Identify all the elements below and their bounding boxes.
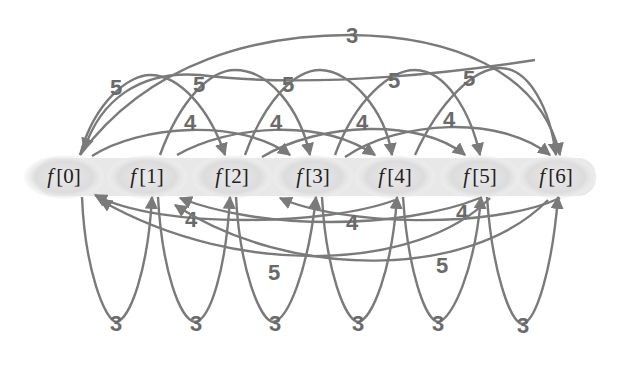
node-f0: f[0] [47,164,80,188]
edge-label: 4 [270,110,283,135]
edge-label: 3 [352,311,364,336]
edge-label: 4 [356,110,369,135]
edge-label: 3 [190,311,202,336]
node-f2: f[2] [215,164,248,188]
edge-label: 4 [443,107,456,132]
circular-shift-diagram: 3 5 5 5 5 5 4 4 4 4 4 4 4 5 5 [0,0,622,368]
edge-label: 3 [269,311,281,336]
edges-bottom-loops: 3 3 3 3 3 3 [82,197,558,338]
edge-label: 4 [346,210,359,235]
edge-label: 5 [282,72,294,97]
edges-top-skip2: 5 5 5 5 5 [80,60,556,155]
node-f4: f[4] [378,164,411,188]
edge-label: 4 [185,207,198,232]
node-f6: f[6] [539,164,572,188]
edge-label: 3 [346,23,358,48]
edge-label: 5 [388,68,400,93]
node-f3: f[3] [296,164,329,188]
edges-top-skip3: 4 4 4 4 [92,107,550,157]
edge-label: 5 [193,72,205,97]
node-f1: f[1] [130,164,163,188]
edge-label: 3 [432,311,444,336]
edge-label: 3 [517,313,529,338]
edge-label: 5 [268,260,280,285]
edge-label: 5 [436,253,448,278]
edge-label: 5 [110,75,122,100]
edge-label: 3 [110,311,122,336]
edge-label: 5 [463,66,475,91]
node-f5: f[5] [463,164,496,188]
edge-label: 4 [184,110,197,135]
